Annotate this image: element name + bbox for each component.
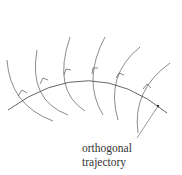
orthogonal-trajectory-curve <box>8 81 167 113</box>
family-curve-6 <box>137 63 170 133</box>
family-curve-1 <box>7 60 53 121</box>
right-angle-mark-1 <box>18 90 27 96</box>
right-angle-mark-2 <box>40 78 48 84</box>
trajectory-label: orthogonal trajectory <box>82 141 132 169</box>
family-curve-5 <box>114 47 140 120</box>
family-of-curves <box>7 37 170 133</box>
family-curve-3 <box>64 37 85 111</box>
right-angle-mark-3 <box>64 69 71 75</box>
family-curve-2 <box>35 50 68 115</box>
family-curve-4 <box>93 37 105 115</box>
trajectory-label-line1: orthogonal <box>82 141 132 155</box>
trajectory-label-line2: trajectory <box>82 155 132 169</box>
pointer-arrowhead-icon <box>157 105 159 107</box>
right-angle-mark-5 <box>116 73 124 78</box>
label-pointer-line <box>137 106 158 138</box>
